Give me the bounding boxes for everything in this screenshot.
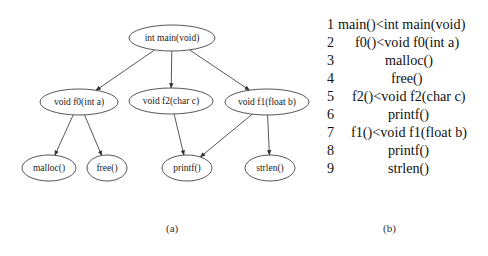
node-malloc: malloc() bbox=[22, 155, 76, 181]
call-graph-nodes: int main(void)void f0(int a)void f2(char… bbox=[22, 25, 309, 181]
line-text: main()<int main(void) bbox=[338, 15, 465, 33]
line-text: printf() bbox=[388, 141, 429, 159]
node-strlen: strlen() bbox=[245, 155, 295, 181]
line-number: 4 bbox=[327, 69, 334, 87]
node-printf: printf() bbox=[162, 155, 212, 181]
line-number: 5 bbox=[327, 87, 334, 105]
edge-f2-to-printf bbox=[174, 114, 184, 155]
line-number: 7 bbox=[327, 123, 334, 141]
line-number: 2 bbox=[327, 33, 334, 51]
edge-f0-to-malloc bbox=[55, 115, 73, 155]
node-free: free() bbox=[87, 155, 127, 181]
node-label: void f1(float b) bbox=[238, 97, 296, 108]
edge-main-to-f2 bbox=[171, 51, 172, 88]
node-f2: void f2(char c) bbox=[129, 88, 213, 114]
line-text: free() bbox=[391, 69, 423, 87]
line-text: malloc() bbox=[385, 51, 433, 69]
caption-a: (a) bbox=[166, 222, 178, 234]
edge-f1-to-printf bbox=[200, 114, 252, 157]
node-f0: void f0(int a) bbox=[40, 89, 118, 115]
line-text: printf() bbox=[388, 105, 429, 123]
line-text: f2()<void f2(char c) bbox=[352, 87, 466, 105]
node-label: printf() bbox=[173, 163, 200, 174]
line-number: 1 bbox=[327, 15, 334, 33]
node-label: free() bbox=[96, 163, 117, 174]
line-number: 8 bbox=[327, 141, 334, 159]
caption-b: (b) bbox=[383, 222, 396, 234]
node-label: void f2(char c) bbox=[143, 96, 199, 107]
node-label: void f0(int a) bbox=[54, 97, 104, 108]
line-number: 9 bbox=[327, 159, 334, 177]
node-label: malloc() bbox=[33, 163, 65, 174]
edge-f0-to-free bbox=[85, 115, 102, 156]
edge-f1-to-strlen bbox=[268, 115, 270, 155]
line-text: f0()<void f0(int a) bbox=[355, 33, 459, 51]
edge-main-to-f1 bbox=[190, 50, 250, 90]
node-label: int main(void) bbox=[145, 33, 200, 44]
line-text: f1()<void f1(float b) bbox=[351, 123, 467, 141]
line-number: 3 bbox=[327, 51, 334, 69]
edge-main-to-f0 bbox=[96, 50, 155, 90]
line-text: strlen() bbox=[388, 159, 429, 177]
node-label: strlen() bbox=[256, 163, 283, 174]
node-f1: void f1(float b) bbox=[225, 89, 309, 115]
line-number: 6 bbox=[327, 105, 334, 123]
call-graph: int main(void)void f0(int a)void f2(char… bbox=[0, 0, 320, 200]
node-main: int main(void) bbox=[129, 25, 215, 51]
